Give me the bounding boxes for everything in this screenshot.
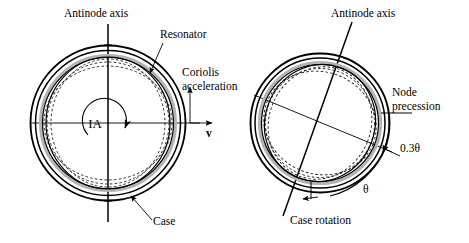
left-diagram: IA Antinode axis Resonator Coriolis acce… [31, 7, 238, 227]
left-input-axis-label: IA [88, 116, 102, 131]
left-velocity-label: v [206, 127, 212, 139]
right-diagram: Antinode axis Node precession 0.3θ θ Cas… [248, 7, 441, 226]
right-gray-band [260, 63, 381, 184]
right-resonator-reference-circle [266, 69, 375, 178]
left-antinode-axis-label: Antinode axis [64, 7, 129, 19]
right-precession-angle-label: 0.3θ [400, 142, 420, 154]
right-antinode-axis-label: Antinode axis [331, 7, 396, 19]
right-case-outer-circle [251, 54, 390, 193]
left-case-leader-line [131, 196, 152, 220]
left-case-label: Case [153, 215, 175, 227]
right-node-axis-extension [385, 149, 400, 156]
right-resonator-flex-ellipse [248, 49, 392, 198]
left-coriolis-label-line1: Coriolis [182, 66, 220, 78]
figure-canvas: IA Antinode axis Resonator Coriolis acce… [0, 0, 469, 243]
hrg-operation-figure: IA Antinode axis Resonator Coriolis acce… [0, 0, 469, 243]
right-case-rotation-label: Case rotation [290, 214, 351, 226]
right-node-precession-label-line1: Node [392, 86, 417, 98]
left-resonator-label: Resonator [160, 28, 207, 40]
right-case-angle-label: θ [363, 183, 369, 195]
left-coriolis-label-line2: acceleration [182, 80, 238, 92]
right-case-inner-circle [255, 58, 385, 188]
right-node-precession-label-line2: precession [392, 100, 441, 113]
